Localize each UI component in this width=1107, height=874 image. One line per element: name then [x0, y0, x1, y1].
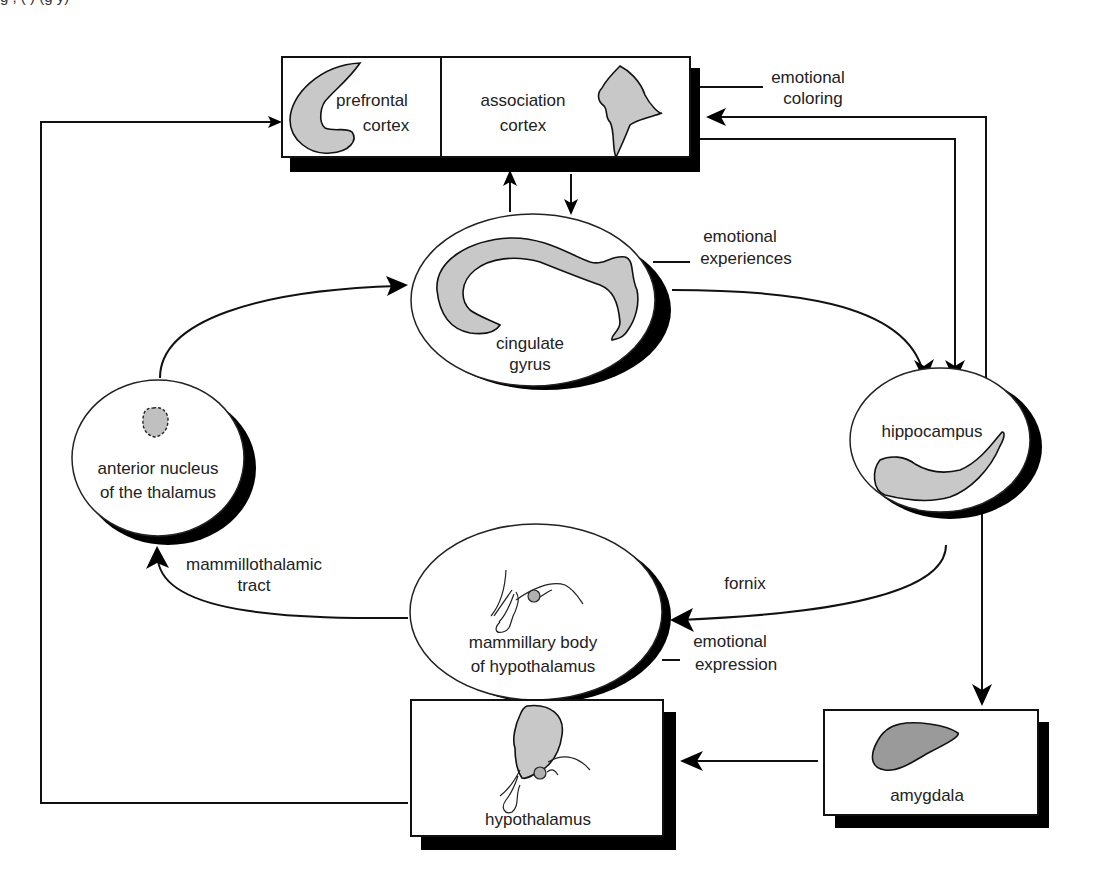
mammillary-label-1: mammillary body — [469, 633, 598, 652]
thalamus-ellipse — [72, 380, 244, 536]
thalamus-label-2: of the thalamus — [100, 483, 216, 502]
mammillothalamic-label-1: mammillothalamic — [186, 555, 323, 574]
fornix-label: fornix — [724, 574, 766, 593]
anterior-nucleus-shape-icon — [143, 408, 168, 437]
emotional-experiences-label-1: emotional — [703, 227, 777, 246]
thalamus-label-1: anterior nucleus — [98, 459, 219, 478]
fornix-curve — [680, 545, 946, 620]
anterior-thalamus-node[interactable]: anterior nucleus of the thalamus — [72, 380, 256, 545]
mammillary-body-node[interactable]: mammillary body of hypothalamus — [410, 524, 671, 703]
hypothalamus-label: hypothalamus — [485, 810, 591, 829]
prefrontal-cortex-label-2: cortex — [363, 116, 410, 135]
cingulate-gyrus-node[interactable]: cingulate gyrus — [411, 214, 671, 390]
papez-circuit-diagram: prefrontal cortex association cortex emo… — [0, 0, 1107, 874]
mammillothalamic-label-2: tract — [237, 576, 270, 595]
cingulate-label-1: cingulate — [496, 334, 564, 353]
arrowhead-into-thalamus — [146, 546, 169, 569]
thalamus-to-cingulate-curve — [160, 286, 398, 378]
amygdala-label: amygdala — [890, 786, 964, 805]
emotional-expression-label-2: expression — [695, 655, 777, 674]
association-cortex-label-2: cortex — [500, 116, 547, 135]
cingulate-to-hippocampus-curve — [672, 290, 923, 372]
cingulate-label-2: gyrus — [509, 355, 551, 374]
hippocampus-label: hippocampus — [881, 422, 982, 441]
hypothalamus-node[interactable]: hypothalamus — [411, 700, 676, 850]
hippocampus-node[interactable]: hippocampus — [850, 368, 1042, 519]
emotional-coloring-label-1: emotional — [771, 68, 845, 87]
cortex-box: prefrontal cortex association cortex — [282, 57, 700, 172]
amygdala-node[interactable]: amygdala — [824, 710, 1049, 828]
mammillary-label-2: of hypothalamus — [471, 657, 596, 676]
emotional-experiences-label-2: experiences — [700, 249, 792, 268]
emotional-expression-label-1: emotional — [693, 632, 767, 651]
prefrontal-cortex-label-1: prefrontal — [336, 91, 408, 110]
emotional-coloring-label-2: coloring — [783, 89, 843, 108]
association-cortex-label-1: association — [480, 91, 565, 110]
